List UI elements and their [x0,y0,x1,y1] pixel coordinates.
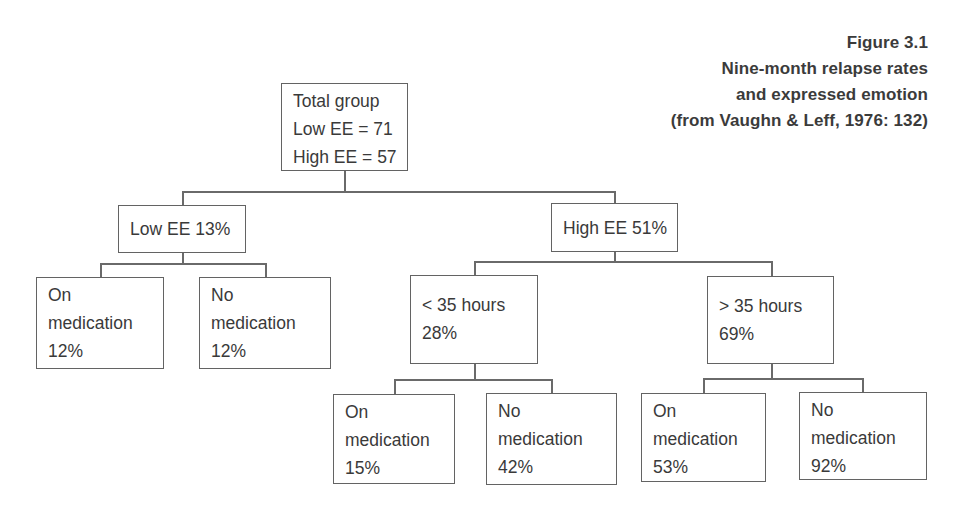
node-text-line: Low EE = 71 [293,115,403,143]
node-text-line: 15% [345,454,450,482]
node-under-35-hours: < 35 hours 28% [410,275,538,364]
node-text-line: On [653,397,761,425]
figure-number: Figure 3.1 [671,30,928,56]
node-under35-on-medication: On medication 15% [333,394,455,484]
node-text-line: On [345,398,450,426]
node-text-line: Low EE 13% [130,215,230,243]
node-text-line: < 35 hours [422,291,533,319]
connector-drop-over35 [771,261,773,276]
connector-root-stem [344,171,346,192]
connector-drop-low-on-med [100,263,102,277]
node-over35-no-medication: No medication 92% [799,392,927,480]
node-text-line: medication [811,424,922,452]
node-text-line: No [211,281,326,309]
figure-source: (from Vaughn & Leff, 1976: 132) [671,108,928,134]
node-text-line: > 35 hours [719,292,829,320]
node-text-line: medication [653,425,761,453]
node-under35-no-medication: No medication 42% [486,393,617,485]
figure-title-line-2: and expressed emotion [671,82,928,108]
node-text-line: medication [498,425,612,453]
connector-drop-high-ee [614,191,616,203]
node-text-line: On [48,281,159,309]
node-text-line: High EE = 57 [293,143,403,171]
node-text-line: 12% [48,337,159,365]
node-text-line: 92% [811,452,922,480]
node-text-line: 28% [422,319,533,347]
connector-drop-under35 [474,261,476,275]
node-low-on-medication: On medication 12% [36,277,164,369]
node-text-line: 53% [653,453,761,481]
node-text-line: medication [211,309,326,337]
node-low-ee: Low EE 13% [118,205,246,253]
connector-over35-stem [771,364,773,379]
node-text-line: 69% [719,320,829,348]
figure-title-line-1: Nine-month relapse rates [671,56,928,82]
relapse-rates-tree-diagram: Figure 3.1 Nine-month relapse rates and … [0,0,961,512]
connector-high-ee-rail [474,261,772,263]
connector-drop-low-ee [182,191,184,205]
connector-under35-stem [474,364,476,380]
connector-over35-rail [703,378,863,380]
node-text-line: 42% [498,453,612,481]
connector-low-ee-rail [100,263,266,265]
connector-drop-over35-no-med [862,378,864,392]
connector-level2-rail [182,191,615,193]
node-text-line: No [498,397,612,425]
node-text-line: 12% [211,337,326,365]
node-text-line: No [811,396,922,424]
node-high-ee: High EE 51% [551,203,678,252]
node-over35-on-medication: On medication 53% [641,393,766,482]
connector-drop-low-no-med [265,263,267,277]
connector-drop-under35-no-med [551,379,553,393]
node-low-no-medication: No medication 12% [199,277,331,369]
figure-caption: Figure 3.1 Nine-month relapse rates and … [671,30,928,134]
connector-drop-under35-on-med [394,379,396,394]
node-text-line: medication [48,309,159,337]
node-over-35-hours: > 35 hours 69% [707,276,834,364]
node-text-line: Total group [293,87,403,115]
connector-drop-over35-on-med [703,378,705,393]
connector-under35-rail [394,379,552,381]
node-text-line: High EE 51% [563,214,667,242]
node-text-line: medication [345,426,450,454]
node-total-group: Total group Low EE = 71 High EE = 57 [281,83,408,171]
